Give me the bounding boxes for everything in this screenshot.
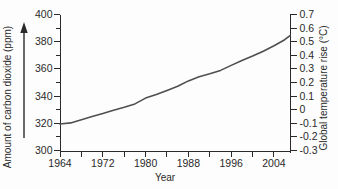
y-right-tick-label: 0.1 xyxy=(300,90,315,102)
x-tick-label: 1980 xyxy=(134,157,158,169)
y-axis-right-title: Global temperature rise (°C) xyxy=(318,25,329,150)
axis-tick-labels: 1964197219801988199620043003203403603804… xyxy=(35,8,318,169)
y-left-tick-label: 400 xyxy=(35,8,53,20)
axes xyxy=(60,15,290,154)
y-right-tick-label: 0.4 xyxy=(300,49,315,61)
y-left-tick-label: 360 xyxy=(35,62,53,74)
y-right-tick-label: 0.7 xyxy=(300,8,315,20)
co2-trend-line xyxy=(60,36,290,124)
x-tick-label: 1972 xyxy=(91,157,115,169)
y-axis-left-title: Amount of carbon dioxide (ppm) xyxy=(2,26,13,168)
y-right-tick-label: 0.2 xyxy=(300,76,315,88)
y-left-tick-label: 300 xyxy=(35,144,53,156)
y-right-tick-label: 0.6 xyxy=(300,22,315,34)
x-tick-label: 1964 xyxy=(48,157,72,169)
x-tick-label: 1988 xyxy=(177,157,201,169)
y-right-tick-label: 0 xyxy=(300,103,306,115)
y-right-tick-label: -0.1 xyxy=(300,117,318,129)
axis-ticks xyxy=(54,15,297,157)
x-tick-label: 1996 xyxy=(219,157,243,169)
up-arrow-icon xyxy=(20,22,27,138)
y-right-tick-label: 0.5 xyxy=(300,35,315,47)
chart-canvas: Amount of carbon dioxide (ppm) Global te… xyxy=(0,0,338,189)
y-left-tick-label: 320 xyxy=(35,117,53,129)
x-axis-title: Year xyxy=(155,172,176,183)
co2-temperature-line-chart: Amount of carbon dioxide (ppm) Global te… xyxy=(0,0,338,189)
y-right-tick-label: -0.3 xyxy=(300,144,318,156)
x-tick-label: 2004 xyxy=(262,157,286,169)
y-left-tick-label: 340 xyxy=(35,90,53,102)
y-left-tick-label: 380 xyxy=(35,35,53,47)
y-right-tick-label: 0.3 xyxy=(300,62,315,74)
y-right-tick-label: -0.2 xyxy=(300,130,318,142)
